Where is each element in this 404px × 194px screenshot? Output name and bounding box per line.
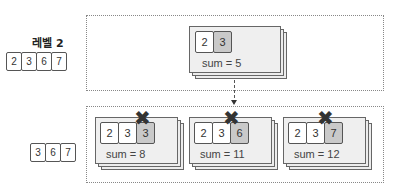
child-cells: 2 3 7	[288, 122, 342, 144]
node-cell: 2	[195, 31, 214, 53]
sum-label: sum = 12	[294, 148, 340, 160]
card-front: 2 3 sum = 5	[189, 26, 281, 73]
prune-x-icon: ✖	[317, 108, 334, 128]
node-cell: 2	[288, 122, 307, 144]
array-cell: 7	[51, 52, 67, 71]
array-cell: 3	[21, 52, 37, 71]
prune-x-icon: ✖	[223, 108, 240, 128]
prune-x-icon: ✖	[134, 108, 151, 128]
array-cell: 3	[30, 143, 46, 162]
node-cell-highlighted: 3	[213, 31, 232, 53]
level-title: 레벨 2	[22, 34, 74, 50]
array-cell: 7	[60, 143, 76, 162]
remaining-array: 3 6 7	[30, 143, 75, 162]
array-cell: 6	[36, 52, 52, 71]
sum-label: sum = 8	[106, 148, 145, 160]
array-cell: 2	[6, 52, 22, 71]
array-cell: 6	[45, 143, 61, 162]
node-cell: 2	[194, 122, 213, 144]
node-cell: 2	[100, 122, 119, 144]
arrow-down-icon	[231, 100, 237, 105]
parent-cells: 2 3	[195, 31, 231, 53]
child-cells: 2 3 6	[194, 122, 248, 144]
sum-label: sum = 5	[202, 57, 241, 69]
sum-label: sum = 11	[200, 148, 245, 160]
level-array: 2 3 6 7	[6, 52, 66, 71]
